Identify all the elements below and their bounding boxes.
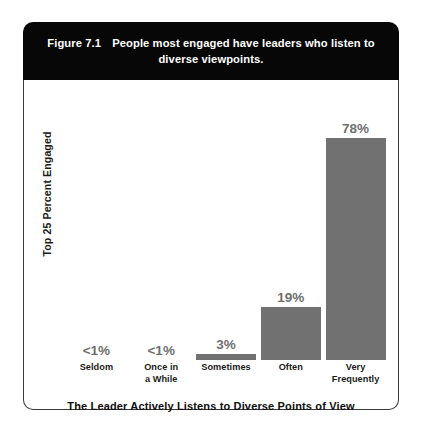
bar-column-seldom: <1% [64, 96, 129, 360]
figure-header: Figure 7.1People most engaged have leade… [23, 22, 399, 80]
category-label-seldom: Seldom [64, 362, 129, 385]
category-label-once-in-a-while: Once in a While [129, 362, 194, 385]
bar-column-very-frequently: 78% [323, 96, 388, 360]
bar-often [261, 307, 321, 360]
figure-number: Figure 7.1 [47, 37, 101, 49]
category-label-line: Sometimes [194, 362, 259, 374]
bars-row: <1% <1% 3% 19% 78% [64, 96, 388, 360]
bar-column-sometimes: 3% [194, 96, 259, 360]
figure-card: Figure 7.1People most engaged have leade… [23, 22, 399, 410]
chart-panel: Top 25 Percent Engaged <1% <1% 3% 19% [23, 80, 399, 410]
bar-column-once-in-a-while: <1% [129, 96, 194, 360]
bar-very-frequently [326, 138, 386, 360]
category-label-often: Often [258, 362, 323, 385]
bar-value-label: 19% [277, 291, 304, 305]
bar-value-label: 78% [342, 122, 369, 136]
category-label-sometimes: Sometimes [194, 362, 259, 385]
category-label-line: Frequently [323, 374, 388, 386]
y-axis-title: Top 25 Percent Engaged [41, 99, 53, 289]
category-labels-row: Seldom Once in a While Sometimes Often V… [64, 362, 388, 385]
category-label-line: Often [258, 362, 323, 374]
category-label-very-frequently: Very Frequently [323, 362, 388, 385]
x-axis-title: The Leader Actively Listens to Diverse P… [24, 400, 398, 412]
bar-value-label: 3% [216, 338, 236, 352]
bar-sometimes [196, 354, 256, 360]
bar-value-label: <1% [147, 344, 174, 358]
category-label-line: Very [323, 362, 388, 374]
category-label-line: Once in [129, 362, 194, 374]
plot-area: <1% <1% 3% 19% 78% [64, 96, 388, 360]
category-label-line: a While [129, 374, 194, 386]
figure-title: Figure 7.1People most engaged have leade… [37, 35, 385, 67]
bar-column-often: 19% [258, 96, 323, 360]
category-label-line: Seldom [64, 362, 129, 374]
figure-caption: People most engaged have leaders who lis… [112, 37, 375, 65]
bar-value-label: <1% [83, 344, 110, 358]
